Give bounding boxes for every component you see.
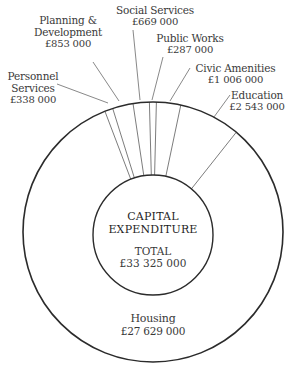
label-social-value: £669 000 [105, 16, 205, 28]
label-civic-value: £1 006 000 [188, 74, 283, 86]
label-social-services: Social Services £669 000 [105, 4, 205, 28]
segment-divider [105, 111, 131, 179]
label-education-value: £2 543 000 [226, 101, 288, 113]
center-title-line1: CAPITAL [127, 210, 179, 223]
segment-divider [191, 132, 236, 189]
label-planning-value: £853 000 [28, 38, 108, 50]
label-public-value: £287 000 [150, 44, 230, 56]
center-total-value: £33 325 000 [120, 257, 187, 269]
label-planning-line1: Planning & [39, 14, 97, 26]
segment-divider [166, 105, 181, 176]
label-planning-development: Planning & Development £853 000 [28, 14, 108, 50]
center-total-label: TOTAL [135, 245, 172, 257]
label-education-line1: Education [231, 89, 283, 101]
label-civic-amenities: Civic Amenities £1 006 000 [188, 62, 283, 86]
label-planning-line2: Development [34, 26, 102, 38]
label-personnel-services: Personnel Services £338 000 [4, 70, 62, 106]
label-housing: Housing £27 629 000 [103, 313, 203, 337]
segment-divider [155, 102, 157, 175]
label-social-line1: Social Services [116, 4, 194, 16]
label-personnel-value: £338 000 [4, 94, 62, 106]
leader-social [133, 30, 140, 100]
label-housing-value: £27 629 000 [103, 325, 203, 337]
segment-divider [133, 104, 144, 176]
label-education: Education £2 543 000 [226, 89, 288, 113]
center-total: TOTAL £33 325 000 [93, 245, 213, 269]
label-public-works: Public Works £287 000 [150, 32, 230, 56]
leader-personnel [57, 84, 108, 103]
label-personnel-line2: Services [11, 82, 55, 94]
leader-planning [93, 62, 119, 101]
center-title: CAPITAL EXPENDITURE [93, 210, 213, 236]
segment-divider [113, 108, 135, 178]
leader-civic [170, 68, 190, 101]
segment-dividers [105, 102, 236, 189]
label-personnel-line1: Personnel [8, 70, 59, 82]
leader-public [152, 57, 163, 100]
label-public-line1: Public Works [156, 32, 223, 44]
segment-divider [149, 102, 151, 175]
center-title-line2: EXPENDITURE [108, 223, 197, 236]
label-housing-line1: Housing [130, 312, 175, 325]
label-civic-line1: Civic Amenities [196, 62, 276, 74]
